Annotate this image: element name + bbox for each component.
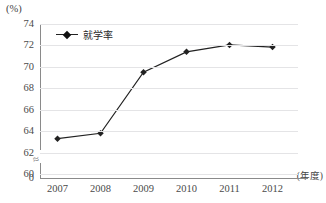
gridline [40, 45, 298, 46]
y-tick-label: 72 [10, 40, 34, 51]
y-axis-tick-labels: 7472706866646260 [8, 24, 34, 174]
line-chart: (%) (年度) 7472706866646260 0 ≈ 2007200820… [0, 0, 326, 203]
y-tick-label: 62 [10, 148, 34, 159]
axis-break-icon: ≈ [32, 153, 40, 165]
x-tick-label: 2011 [219, 183, 240, 194]
gridline [40, 131, 298, 132]
y-axis-zero-label: 0 [8, 172, 34, 183]
chart-legend: 就学率 [56, 27, 113, 42]
y-tick-label: 64 [10, 126, 34, 137]
data-point-marker [54, 135, 61, 142]
x-tick-label: 2009 [133, 183, 154, 194]
series-enrollment-rate [40, 24, 298, 174]
legend-line-marker-icon [56, 30, 78, 39]
gridline [40, 24, 298, 25]
x-axis-unit-label: (年度) [297, 168, 323, 182]
gridline [40, 153, 298, 154]
y-tick-label: 74 [10, 19, 34, 30]
legend-label-enrollment-rate: 就学率 [83, 27, 113, 42]
data-point-marker [183, 49, 190, 56]
plot-area [40, 24, 298, 174]
x-tick-label: 2008 [90, 183, 111, 194]
gridline [40, 88, 298, 89]
gridline [40, 174, 298, 175]
y-tick-label: 68 [10, 83, 34, 94]
series-line [58, 45, 273, 139]
y-tick-label: 70 [10, 62, 34, 73]
x-axis-line [40, 178, 308, 179]
gridline [40, 67, 298, 68]
x-tick-label: 2012 [262, 183, 283, 194]
x-tick-label: 2007 [47, 183, 68, 194]
gridline [40, 110, 298, 111]
x-tick-label: 2010 [176, 183, 197, 194]
y-tick-label: 66 [10, 105, 34, 116]
y-axis-unit-label: (%) [6, 3, 22, 14]
